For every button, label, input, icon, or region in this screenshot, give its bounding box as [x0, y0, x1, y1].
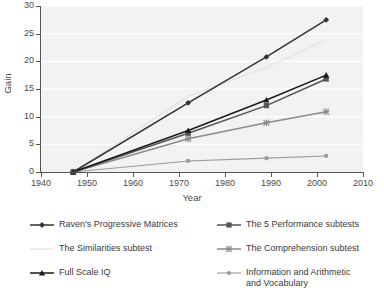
legend-item-ravens[interactable]: Raven's Progressive Matrices: [30, 219, 178, 230]
legend-item-similarities-subtest[interactable]: The Similarities subtest: [30, 243, 152, 254]
y-tick: [36, 89, 40, 90]
x-marker: [263, 119, 270, 126]
x-tick-label: 1950: [67, 178, 107, 188]
y-tick: [36, 172, 40, 173]
series-line: [73, 40, 326, 172]
dot-marker: [264, 156, 268, 160]
plot-canvas: [41, 6, 363, 172]
x-tick-label: 2000: [297, 178, 337, 188]
dot-marker: [227, 271, 231, 275]
y-axis-spine: [40, 6, 41, 173]
legend-item-full-scale-iq[interactable]: Full Scale IQ: [30, 267, 111, 278]
legend-label: The Comprehension subtest: [246, 243, 359, 254]
chart-legend: Raven's Progressive Matrices The 5 Perfo…: [30, 219, 380, 289]
square-marker: [226, 222, 231, 227]
x-axis-spine: [40, 172, 364, 173]
x-tick-label: 2010: [343, 178, 383, 188]
x-axis-title: Year: [0, 192, 384, 203]
triangle-marker: [323, 72, 329, 78]
diamond-marker-icon: [30, 219, 54, 230]
legend-label: Information and Arithmetic and Vocabular…: [246, 267, 351, 289]
dot-marker: [324, 154, 328, 158]
x-tick: [41, 173, 42, 177]
x-marker: [185, 135, 192, 142]
triangle-marker-icon: [30, 267, 54, 278]
legend-item-comprehension-subtest[interactable]: The Comprehension subtest: [217, 243, 359, 254]
x-tick: [133, 173, 134, 177]
y-tick: [36, 61, 40, 62]
legend-label: The Similarities subtest: [59, 243, 152, 254]
y-tick: [36, 144, 40, 145]
series-0: [70, 17, 329, 175]
line-chart-figure: 051015202530 194019501960197019801990200…: [0, 0, 384, 294]
y-tick-label: 30: [8, 0, 34, 10]
x-tick-label: 1990: [251, 178, 291, 188]
y-tick-label: 5: [8, 138, 34, 148]
x-tick: [225, 173, 226, 177]
x-marker-icon: [217, 243, 241, 254]
y-tick-label: 0: [8, 166, 34, 176]
x-marker: [226, 246, 233, 253]
x-tick-label: 1960: [113, 178, 153, 188]
plot-area: [41, 6, 363, 172]
x-tick: [179, 173, 180, 177]
legend-item-information-arithmetic-vocabulary[interactable]: Information and Arithmetic and Vocabular…: [217, 267, 351, 289]
series-line: [73, 112, 326, 172]
y-tick: [36, 6, 40, 7]
diamond-marker: [39, 222, 45, 228]
series-layer: [70, 17, 330, 175]
square-marker-icon: [217, 219, 241, 230]
line-marker-icon: [30, 243, 54, 254]
legend-label: Full Scale IQ: [59, 267, 111, 278]
x-tick: [271, 173, 272, 177]
legend-label: Raven's Progressive Matrices: [59, 219, 178, 230]
y-tick: [36, 34, 40, 35]
dot-marker-icon: [217, 267, 241, 278]
x-marker: [323, 108, 330, 115]
y-tick-label: 10: [8, 111, 34, 121]
x-tick: [317, 173, 318, 177]
x-tick-label: 1940: [21, 178, 61, 188]
x-tick: [87, 173, 88, 177]
square-marker: [264, 103, 269, 108]
x-tick: [363, 173, 364, 177]
x-tick-label: 1970: [159, 178, 199, 188]
y-axis-title: Gain: [2, 64, 13, 104]
dot-marker: [186, 159, 190, 163]
legend-item-performance-subtests[interactable]: The 5 Performance subtests: [217, 219, 359, 230]
legend-label: The 5 Performance subtests: [246, 219, 359, 230]
series-4: [70, 72, 329, 174]
y-tick-label: 25: [8, 28, 34, 38]
y-tick: [36, 117, 40, 118]
x-tick-label: 1980: [205, 178, 245, 188]
series-3: [70, 108, 330, 175]
series-2: [73, 40, 326, 172]
